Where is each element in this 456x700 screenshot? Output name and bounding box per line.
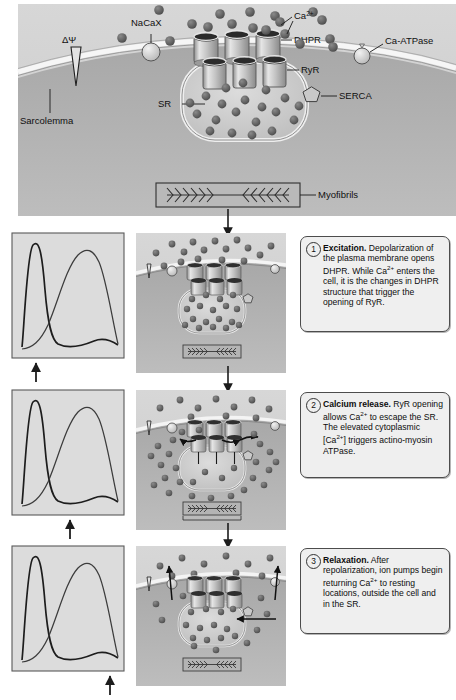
nacax-exchanger	[167, 423, 177, 433]
step-2-graph-panel	[12, 390, 124, 539]
step-2-cell-panel	[136, 390, 286, 530]
step-3-caption-text: Relaxation. After repolarization, ion pu…	[323, 555, 443, 609]
myofibrils-box	[156, 183, 300, 207]
nacax-label: NaCaX	[131, 17, 162, 28]
step-2-number: 2	[306, 398, 321, 413]
membrane-potential-label: ΔΨ	[62, 34, 76, 45]
myofibrils-label: Myofibrils	[318, 189, 358, 200]
step-1-body: Depolarization of the plasma membrane op…	[323, 243, 439, 307]
step-2-title: Calcium release.	[323, 399, 391, 409]
nacax-exchanger	[167, 579, 177, 589]
ryr-label: RyR	[301, 64, 320, 75]
step-1-graph-panel	[12, 233, 124, 382]
ca-atpase-label: Ca-ATPase	[385, 35, 433, 46]
ryr-channel	[203, 58, 226, 89]
step-3-title: Relaxation.	[323, 555, 369, 565]
sr-label: SR	[158, 98, 171, 109]
step-3-graph-panel	[12, 546, 124, 695]
top-overview-panel: ΔΨ Sarcolemma NaCaX Ca-ATPase SR SERCA	[18, 4, 456, 216]
step-1-title: Excitation.	[323, 243, 366, 253]
nacax-exchanger	[167, 266, 177, 276]
step-3-number: 3	[306, 554, 321, 569]
step-1-caption-text: Excitation. Depolarization of the plasma…	[323, 243, 443, 307]
step-1-caption-box: 1 Excitation. Depolarization of the plas…	[300, 236, 450, 332]
ryr-channel	[263, 56, 286, 87]
nacax-exchanger	[142, 43, 160, 61]
step-3-caption-box: 3 Relaxation. After repolarization, ion …	[300, 548, 450, 634]
step-1-cell-panel	[136, 233, 286, 373]
step-3-cell-panel	[136, 546, 286, 686]
step-1-number: 1	[306, 242, 321, 257]
step-2-caption-box: 2 Calcium release. RyR opening allows Ca…	[300, 392, 450, 478]
ca-atpase-pump	[271, 265, 280, 274]
ca-atpase-pump	[271, 422, 280, 431]
serca-label: SERCA	[339, 90, 372, 101]
ca-atpase-pump	[271, 578, 280, 587]
step-2-caption-text: Calcium release. RyR opening allows Ca2+…	[323, 399, 443, 456]
sarcolemma-label: Sarcolemma	[20, 115, 74, 126]
